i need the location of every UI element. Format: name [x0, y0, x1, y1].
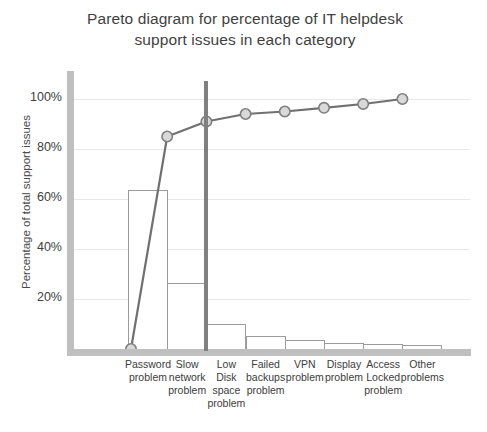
- cumulative-marker: [162, 131, 172, 141]
- pareto-chart-figure: Pareto diagram for percentage of IT help…: [0, 0, 487, 432]
- cumulative-line-series: [74, 72, 470, 350]
- x-axis-spine: [67, 349, 471, 356]
- y-tick-label-100: 100%: [14, 91, 62, 103]
- cumulative-marker: [397, 94, 407, 104]
- y-axis-tick-labels: 100% 80% 60% 40% 20%: [10, 0, 62, 432]
- y-tick-label-80: 80%: [14, 141, 62, 153]
- cumulative-marker: [240, 109, 250, 119]
- x-axis-category-label: Other problems: [396, 358, 448, 384]
- y-tick-label-40: 40%: [14, 241, 62, 253]
- cumulative-marker: [319, 103, 329, 113]
- chart-title: Pareto diagram for percentage of IT help…: [40, 8, 450, 50]
- y-tick-label-20: 20%: [14, 291, 62, 303]
- plot-area: [74, 72, 470, 350]
- y-tick-label-60: 60%: [14, 191, 62, 203]
- cumulative-marker: [280, 106, 290, 116]
- y-axis-spine: [67, 71, 74, 351]
- pareto-cutoff-divider-line: [204, 81, 208, 351]
- x-axis-category-labels: Password problemSlow network problemLow …: [74, 358, 474, 430]
- cumulative-marker: [358, 99, 368, 109]
